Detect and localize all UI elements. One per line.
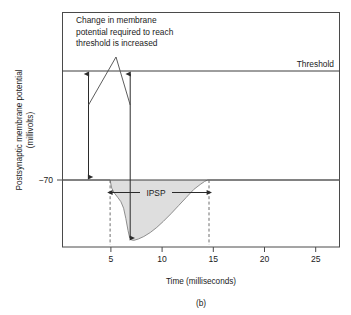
- ipsp-chart: Change in membrane potential required to…: [0, 0, 351, 315]
- threshold-label: Threshold: [297, 59, 335, 69]
- annotation-line-2: potential required to reach: [76, 27, 174, 37]
- x-tick-label-5: 5: [109, 254, 114, 264]
- x-tick-label-20: 20: [260, 254, 270, 264]
- annotation-leader-lines: [89, 57, 131, 105]
- y-tick-label-minus70: −70: [38, 175, 53, 185]
- x-tick-label-10: 10: [157, 254, 167, 264]
- ipsp-trace-line: [63, 180, 340, 240]
- x-axis-title: Time (milliseconds): [166, 277, 236, 286]
- y-axis-title-line-1: Postsynaptic membrane potential: [15, 69, 24, 190]
- y-axis-title-line-2: (millivolts): [26, 112, 35, 149]
- ipsp-label: IPSP: [146, 188, 165, 198]
- x-tick-label-15: 15: [209, 254, 219, 264]
- figure-container: Change in membrane potential required to…: [0, 0, 351, 315]
- annotation-line-1: Change in membrane: [76, 15, 157, 25]
- x-tick-label-25: 25: [311, 254, 321, 264]
- annotation-line-3: threshold is increased: [76, 38, 158, 48]
- panel-label: (b): [196, 298, 206, 308]
